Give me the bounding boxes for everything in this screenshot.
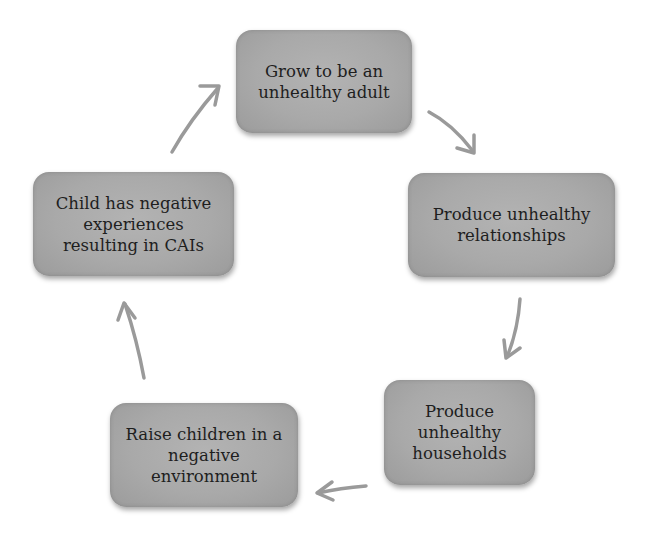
- arrow-icon-relationships-to-households: [504, 299, 520, 358]
- node-text-line: unhealthy: [412, 422, 506, 443]
- node-text-line: Raise children in a: [126, 424, 283, 445]
- node-text-line: Produce unhealthy: [433, 204, 591, 225]
- node-text-line: Grow to be an: [258, 61, 390, 82]
- node-produce-unhealthy-relationships: Produce unhealthy relationships: [408, 173, 615, 277]
- node-produce-unhealthy-households: Produce unhealthy households: [384, 380, 535, 485]
- node-text-line: resulting in CAIs: [56, 235, 212, 256]
- node-child-negative-experiences: Child has negative experiences resulting…: [33, 172, 234, 276]
- cycle-diagram: Grow to be an unhealthy adult Produce un…: [0, 0, 647, 547]
- node-text-line: relationships: [433, 225, 591, 246]
- arrow-icon-adult-to-relationships: [429, 112, 474, 153]
- node-text-line: Produce: [412, 401, 506, 422]
- node-text-line: households: [412, 443, 506, 464]
- node-grow-unhealthy-adult: Grow to be an unhealthy adult: [236, 30, 412, 133]
- node-text-line: experiences: [56, 214, 212, 235]
- node-text-line: negative: [126, 445, 283, 466]
- node-text-line: Child has negative: [56, 193, 212, 214]
- node-raise-children-negative-environment: Raise children in a negative environment: [110, 403, 298, 507]
- node-text-line: environment: [126, 466, 283, 487]
- arrow-icon-child-to-adult: [172, 86, 219, 152]
- arrow-icon-households-to-children: [317, 482, 366, 500]
- arrow-icon-children-to-child: [118, 303, 144, 378]
- node-text-line: unhealthy adult: [258, 82, 390, 103]
